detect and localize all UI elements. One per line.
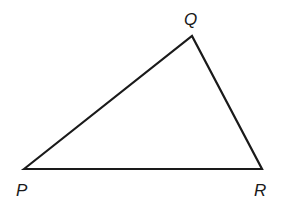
vertex-label-r: R xyxy=(254,181,266,200)
triangle-diagram: Q P R xyxy=(0,0,282,202)
triangle-pqr xyxy=(24,36,262,169)
vertex-label-q: Q xyxy=(184,10,197,29)
vertex-label-p: P xyxy=(16,181,28,200)
